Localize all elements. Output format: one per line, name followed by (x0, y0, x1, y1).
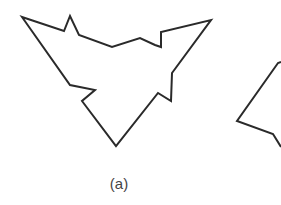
polygon-b-partial-shape (237, 62, 281, 147)
polygon-diagram (0, 0, 281, 205)
polygon-a-shape (22, 16, 211, 146)
caption-a: (a) (104, 175, 134, 193)
figure-panel: (a) (0, 0, 281, 205)
